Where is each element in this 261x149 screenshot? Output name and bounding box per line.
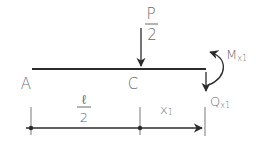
load-numerator: P (146, 5, 155, 23)
x1-label: x1 (160, 102, 173, 117)
moment-arrow (209, 52, 223, 85)
x1-symbol: x (160, 102, 168, 117)
dot-a (29, 126, 33, 130)
shear-label: Qx1 (210, 94, 230, 110)
x1-subscript: 1 (168, 108, 173, 117)
beam-diagram: P 2 A C Mx1 Qx1 ℓ 2 x1 (0, 0, 261, 149)
point-a-label: A (21, 75, 31, 93)
load-denominator: 2 (147, 26, 157, 44)
shear-symbol: Q (210, 94, 220, 109)
dot-c (138, 126, 142, 130)
moment-subscript: x1 (237, 54, 247, 63)
half-span-denominator: 2 (80, 110, 88, 125)
half-span-numerator: ℓ (82, 92, 87, 107)
point-c-label: C (128, 75, 138, 93)
shear-subscript: x1 (220, 101, 230, 110)
moment-label: Mx1 (226, 47, 247, 63)
moment-symbol: M (226, 47, 237, 62)
